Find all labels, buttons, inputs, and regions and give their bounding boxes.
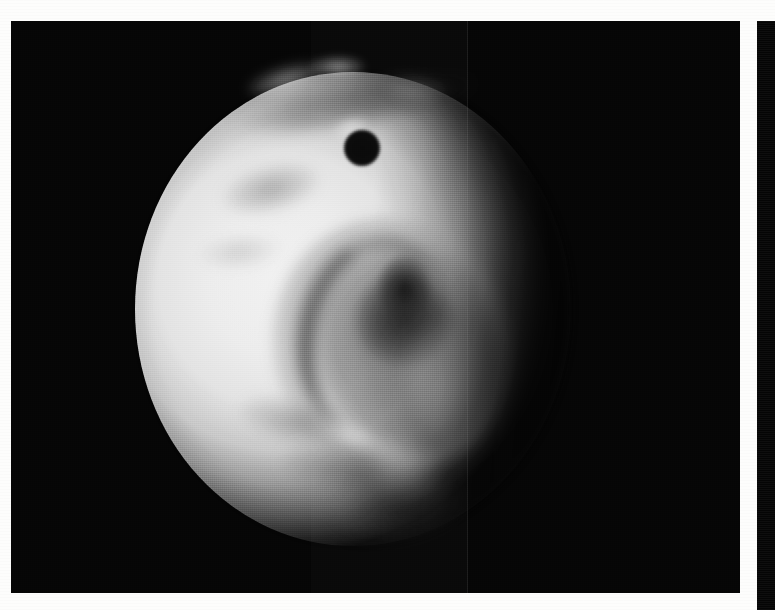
side-scanline-overlay <box>757 21 775 610</box>
south-terrain-label: Mottled dark southern terrain <box>0 0 1 1</box>
subject-description: Bright, heavily cratered icy satellite, … <box>0 0 1 1</box>
vertical-artifact-label: faint vertical transmission line artifac… <box>0 0 1 1</box>
image-plate: Grayscale spacecraft image of a cratered… <box>0 0 775 610</box>
basin-core-label: Dark basin floor shadow <box>0 0 1 1</box>
dark-crater-label: Small dark circular crater <box>0 0 1 1</box>
grain-artifact-label: photographic halftone grain <box>0 0 1 1</box>
limb-darkening <box>135 72 571 546</box>
impact-basin-label: Large degraded impact basin <box>0 0 1 1</box>
scanline-artifact-label: horizontal raster scan lines <box>0 0 1 1</box>
terminator-label: Day / night terminator on the eastern li… <box>0 0 1 1</box>
main-image-panel[interactable] <box>11 21 740 593</box>
north-ridges-label: Bright ridges along the northern limb <box>0 0 1 1</box>
plate-title: Grayscale spacecraft image of a cratered… <box>0 0 1 1</box>
side-image-panel[interactable] <box>757 21 775 610</box>
